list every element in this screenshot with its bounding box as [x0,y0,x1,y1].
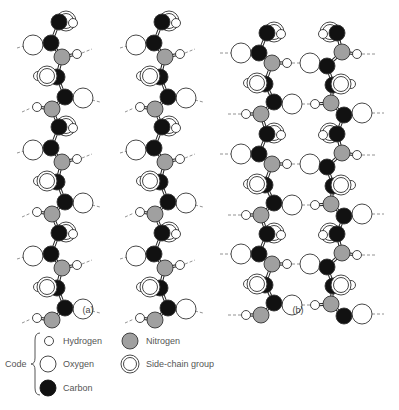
polypeptide-sheet-diagram: (a) (b) Code Hydrogen Oxygen Carbon Nitr… [0,0,399,410]
carbon-atom [329,25,345,41]
carbon-atom [336,308,352,324]
hydrogen-atom [176,261,185,270]
hydrogen-atom [73,50,82,59]
hydrogen-legend-icon [45,337,54,346]
carbon-atom [43,246,59,262]
oxygen-atom [23,140,43,160]
hydrogen-atom [176,155,185,164]
nitrogen-atom [157,154,173,170]
hydrogen-atom [311,100,320,109]
oxygen-atom [23,246,43,266]
hydrogen-atom [33,103,42,112]
hydrogen-atom [283,160,292,169]
hydrogen-atom [242,211,251,220]
carbon-atom [266,295,282,311]
carbon-atom [319,58,335,74]
hydrogen-atom [311,201,320,210]
nitrogen-atom [323,95,339,111]
oxygen-atom [73,193,93,213]
oxygen-atom [352,103,372,123]
sidechain-inner-ring [143,69,158,84]
nitrogen-atom [157,49,173,65]
sidechain-inner-ring [334,77,349,92]
oxygen-atom [300,154,320,174]
oxygen-atom [282,195,302,215]
hydrogen-atom [353,251,362,260]
oxygen-atom [231,144,251,164]
legend-label-sidechain: Side-chain group [146,359,214,369]
oxygen-atom [300,53,320,73]
nitrogen-atom [54,154,70,170]
hydrogen-atom [172,124,181,133]
carbon-atom [51,119,67,135]
hydrogen-bond [125,213,134,217]
hydrogen-atom [33,314,42,323]
panel-label-b: (b) [293,305,304,315]
carbon-atom [319,159,335,175]
carbon-atom [160,89,176,105]
hydrogen-atom [69,124,78,133]
oxygen-atom [282,94,302,114]
hydrogen-atom [73,155,82,164]
hydrogen-atom [136,103,145,112]
hydrogen-bond [82,49,92,53]
hydrogen-bond [185,154,195,158]
carbon-atom [160,194,176,210]
carbon-atom [259,126,275,142]
hydrogen-atom [242,110,251,119]
sidechain-inner-ring [250,76,265,91]
carbon-atom [57,89,73,105]
oxygen-atom [176,193,196,213]
legend-label-oxygen: Oxygen [63,359,94,369]
nitrogen-atom [253,106,269,122]
carbon-atom [154,14,170,30]
nitrogen-atom [44,312,60,328]
hydrogen-bond [92,205,100,207]
carbon-atom [259,25,275,41]
carbon-atom [146,140,162,156]
oxygen-legend-icon [40,356,56,372]
oxygen-atom [73,88,93,108]
hydrogen-atom [319,131,328,140]
oxygen-atom [126,246,146,266]
legend-label-hydrogen: Hydrogen [63,336,102,346]
carbon-atom [146,246,162,262]
nitrogen-atom [334,44,350,60]
legend-label-carbon: Carbon [63,383,93,393]
hydrogen-atom [311,301,320,310]
carbon-atom [51,14,67,30]
atoms-layer [23,11,372,328]
nitrogen-atom [253,207,269,223]
sidechain-inner-ring [250,277,265,292]
hydrogen-bond [22,319,31,323]
carbon-atom [259,226,275,242]
nitrogen-atom [147,101,163,117]
carbon-atom [57,194,73,210]
hydrogen-bond [195,100,203,102]
hydrogen-atom [69,230,78,239]
carbon-atom [251,146,267,162]
nitrogen-atom [323,296,339,312]
nitrogen-atom [264,256,280,272]
oxygen-atom [352,304,372,324]
hydrogen-atom [277,30,286,39]
hydrogen-bond [92,100,100,102]
hydrogen-atom [277,231,286,240]
carbon-atom [43,35,59,51]
sidechain-inner-ring [40,174,55,189]
carbon-atom [329,126,345,142]
hydrogen-atom [353,151,362,160]
nitrogen-atom [334,145,350,161]
panel-label-a: (a) [83,305,94,315]
carbon-legend-icon [40,380,56,396]
oxygen-atom [231,244,251,264]
nitrogen-atom [334,245,350,261]
hydrogen-atom [283,260,292,269]
sidechain-inner-ring [40,280,55,295]
hydrogen-atom [136,208,145,217]
carbon-atom [336,208,352,224]
oxygen-atom [352,204,372,224]
nitrogen-atom [44,101,60,117]
nitrogen-atom [54,260,70,276]
hydrogen-atom [283,59,292,68]
